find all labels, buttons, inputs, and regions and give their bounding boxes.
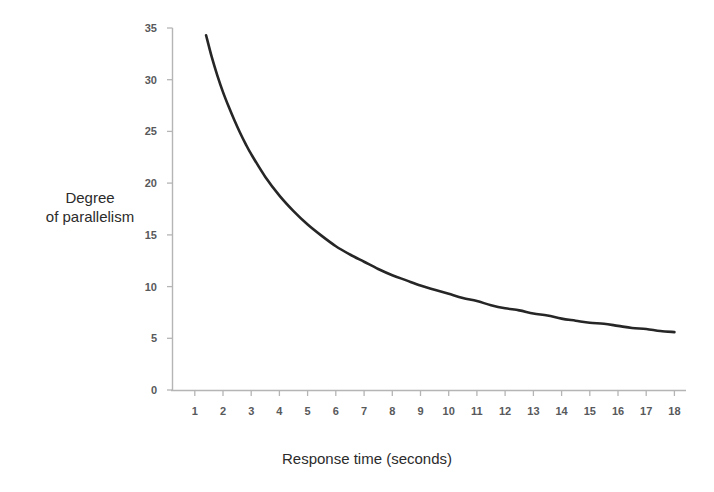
y-axis-title-line1: Degree [24, 188, 156, 207]
x-tick-label: 17 [635, 405, 657, 417]
x-tick-label: 7 [353, 405, 375, 417]
chart-figure: 35 30 25 20 15 10 5 0 1 2 3 4 5 6 7 8 9 … [0, 0, 714, 492]
x-tick-label: 14 [551, 405, 573, 417]
y-tick-label: 15 [131, 229, 157, 241]
x-tick-label: 2 [212, 405, 234, 417]
y-axis-title: Degree of parallelism [24, 188, 156, 226]
y-tick-label: 30 [131, 74, 157, 86]
x-tick-label: 1 [184, 405, 206, 417]
data-curve-line [206, 35, 674, 332]
y-tick-label: 0 [131, 384, 157, 396]
x-tick-label: 11 [466, 405, 488, 417]
x-axis-title: Response time (seconds) [237, 450, 497, 467]
y-tick-marks [167, 28, 173, 390]
x-tick-label: 16 [607, 405, 629, 417]
x-tick-marks [195, 391, 675, 397]
x-tick-label: 8 [381, 405, 403, 417]
x-tick-label: 12 [494, 405, 516, 417]
x-tick-label: 10 [438, 405, 460, 417]
y-tick-label: 10 [131, 281, 157, 293]
y-axis-title-line2: of parallelism [24, 207, 156, 226]
y-tick-label: 25 [131, 125, 157, 137]
x-tick-label: 3 [240, 405, 262, 417]
x-tick-label: 4 [268, 405, 290, 417]
x-tick-label: 5 [297, 405, 319, 417]
plot-area [0, 0, 714, 492]
x-tick-label: 15 [579, 405, 601, 417]
x-tick-label: 9 [410, 405, 432, 417]
y-tick-label: 35 [131, 22, 157, 34]
x-tick-label: 13 [522, 405, 544, 417]
x-tick-label: 6 [325, 405, 347, 417]
y-tick-label: 5 [131, 332, 157, 344]
x-tick-label: 18 [663, 405, 685, 417]
